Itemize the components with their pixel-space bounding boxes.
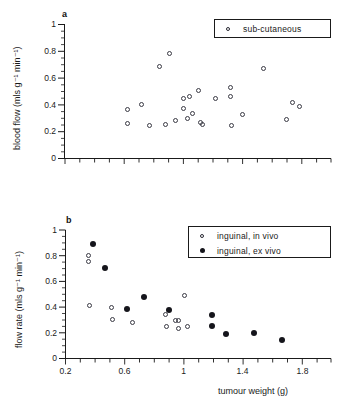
data-point-open [185,324,190,329]
panel-b-ytick-0: 0 [31,353,57,363]
legend-entry-inguinal-in-vivo: inguinal, in vivo [189,228,330,243]
panel-b-ytick-3: 0.6 [31,276,57,286]
data-point-filled [124,306,130,312]
panel-a-ytick-0: 0 [30,153,56,163]
open-circle-icon [189,234,215,238]
panel-a-ytick-1: 0.2 [30,126,56,136]
panel-a-ytick-3: 0.6 [30,73,56,83]
legend-label-sub-cutaneous: sub-cutaneous [241,24,301,34]
panel-b-ytick-2: 0.4 [31,302,57,312]
data-point-open [157,64,162,69]
data-point-open [125,121,130,126]
data-point-filled [90,241,96,247]
panel-a: a blood flow (mls g⁻¹ min⁻¹) [0,0,346,196]
data-point-filled [279,337,285,343]
filled-circle-icon [189,248,215,253]
legend-entry-inguinal-ex-vivo: inguinal, ex vivo [189,243,330,258]
panel-b: b flow rate (mls g⁻¹ min⁻¹) tumour weigh… [0,196,346,402]
data-point-open [164,324,169,329]
figure-container: a blood flow (mls g⁻¹ min⁻¹) [0,0,346,402]
panel-b-xtick-4: 1.8 [288,366,317,376]
panel-b-legend: inguinal, in vivo inguinal, ex vivo [188,226,331,258]
legend-label-inguinal-in-vivo: inguinal, in vivo [215,231,279,241]
panel-b-xtick-3: 1.4 [228,366,257,376]
panel-a-ytick-2: 0.4 [30,100,56,110]
panel-b-ytick-1: 0.2 [31,328,57,338]
data-point-open [125,107,130,112]
panel-a-ytick-5: 1 [30,19,56,29]
data-point-open [176,318,181,323]
legend-entry-sub-cutaneous: sub-cutaneous [215,20,330,37]
data-point-open [163,122,168,127]
data-point-open [200,122,205,127]
panel-b-xtick-2: 1 [169,366,198,376]
panel-a-legend: sub-cutaneous [214,19,331,38]
panel-b-ytick-5: 1 [31,225,57,235]
data-point-open [196,88,201,93]
data-point-open [147,123,152,128]
data-point-open [290,100,295,105]
panel-b-xtick-0: 0.2 [51,366,80,376]
panel-b-ytick-4: 0.8 [31,251,57,261]
data-point-open [228,85,233,90]
data-point-open [190,111,195,116]
panel-b-xtick-1: 0.6 [110,366,139,376]
data-point-open [86,259,91,264]
legend-label-inguinal-ex-vivo: inguinal, ex vivo [215,246,281,256]
data-point-filled [251,330,257,336]
panel-a-ytick-4: 0.8 [30,46,56,56]
data-point-open [240,112,245,117]
data-point-open [87,303,92,308]
data-point-open [261,66,266,71]
data-point-filled [209,312,215,318]
open-circle-icon [215,27,241,31]
